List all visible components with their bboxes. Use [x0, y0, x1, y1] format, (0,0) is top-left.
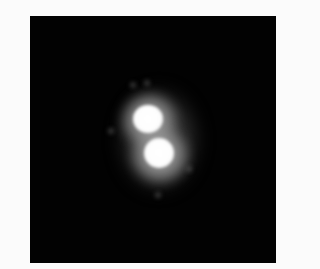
speck — [108, 128, 114, 134]
speck — [130, 82, 136, 88]
speck — [186, 166, 192, 172]
upper-blob-core — [133, 105, 163, 133]
speck — [155, 192, 161, 198]
micrograph-frame — [30, 16, 276, 263]
speck — [144, 80, 150, 86]
lower-blob-core — [144, 138, 174, 168]
